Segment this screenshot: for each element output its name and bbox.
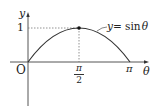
pi-over-2-numerator: π [73, 64, 85, 73]
curve-eq-theta: θ [142, 20, 148, 32]
y-axis-arrow-icon [26, 12, 29, 17]
x-axis-label-theta: θ [143, 66, 150, 77]
label-leader-line [97, 27, 107, 31]
pi-over-2-denominator: 2 [73, 76, 85, 85]
peak-point [77, 26, 81, 30]
y-tick-1-label: 1 [17, 22, 24, 33]
x-axis-arrow-icon [144, 60, 149, 63]
sine-graph-figure: y 1 O π 2 π θ y= sin θ [0, 0, 155, 111]
y-axis-label: y [19, 8, 25, 19]
pi-over-2-label: π 2 [73, 64, 85, 85]
curve-eq-sin: = sin [113, 20, 141, 32]
curve-equation-label: y= sin θ [107, 21, 148, 32]
origin-label: O [16, 64, 26, 76]
pi-tick-label: π [126, 64, 133, 74]
sine-curve [28, 28, 130, 62]
